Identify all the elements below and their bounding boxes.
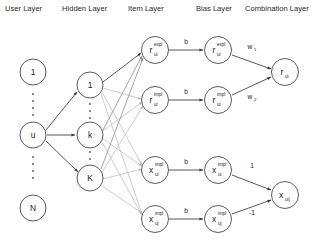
item-layer-nodes: r ui expl r ui impl x ui impl x uj impl <box>142 37 169 233</box>
node-combination-rui-circle[interactable] <box>272 59 299 86</box>
node-item-r-expl-sup: expl <box>154 42 162 47</box>
node-bias-r-impl-circle[interactable] <box>205 87 232 114</box>
node-hidden-1[interactable]: 1 <box>77 72 103 98</box>
node-bias-x-ui[interactable]: x ui impl <box>205 157 232 184</box>
node-user-u-label: u <box>31 130 36 140</box>
edge-bias3-to-xuij <box>232 175 271 190</box>
edge-hk-to-item3 <box>103 139 142 166</box>
edge-hK-to-item3 <box>103 169 142 179</box>
node-combination-xuij[interactable]: x uij <box>272 182 299 209</box>
header-hidden-layer: Hidden Layer <box>62 4 108 13</box>
node-bias-x-uj-sub: uj <box>218 221 222 226</box>
edge-hK-to-item4 <box>102 186 142 213</box>
edges-bias-to-combination: w 1 w 2 1 -1 <box>232 43 271 216</box>
edge-label-w1-sub: 1 <box>254 47 257 52</box>
node-bias-x-ui-circle[interactable] <box>205 157 232 184</box>
edge-label-w1: w 1 <box>247 43 257 52</box>
node-bias-r-expl-label: r <box>213 45 216 55</box>
header-user-layer: User Layer <box>5 4 43 13</box>
node-bias-r-expl-sup: expl <box>217 42 225 47</box>
node-item-r-expl-label: r <box>150 45 153 55</box>
node-hidden-1-label: 1 <box>88 80 93 90</box>
edge-u-to-hK <box>46 141 78 172</box>
node-hidden-kcap[interactable]: K <box>77 165 103 191</box>
node-user-1-label: 1 <box>31 67 36 77</box>
bias-layer-nodes: r ui expl r ui impl x ui impl x uj impl <box>205 37 232 233</box>
node-item-x-ui-circle[interactable] <box>142 157 169 184</box>
node-item-r-impl-label: r <box>150 95 153 105</box>
edge-label-w2-text: w <box>247 93 253 100</box>
edge-hk-to-item4 <box>102 142 142 215</box>
edge-label-minus-one: -1 <box>249 209 255 216</box>
edge-label-w2: w 2 <box>247 93 257 102</box>
edge-u-to-h1 <box>46 92 77 130</box>
edge-label-w1-text: w <box>247 43 253 50</box>
node-item-r-expl-circle[interactable] <box>142 37 169 64</box>
node-item-x-ui-sub: ui <box>155 172 159 177</box>
node-bias-r-impl-sup: impl <box>217 92 225 97</box>
node-user-1[interactable]: 1 <box>20 59 46 85</box>
node-combination-rui-sub: ui <box>285 74 289 79</box>
node-combination-xuij-circle[interactable] <box>272 182 299 209</box>
edge-h1-to-item3 <box>102 92 142 165</box>
node-item-r-impl[interactable]: r ui impl <box>142 87 169 114</box>
hidden-layer-nodes: 1 k K <box>77 72 103 191</box>
node-item-x-uj-sup: impl <box>155 211 163 216</box>
node-combination-xuij-sub: uij <box>285 197 290 202</box>
node-user-n-label: N <box>30 203 36 213</box>
edge-label-one: 1 <box>250 162 254 169</box>
node-bias-r-expl-sub: ui <box>217 52 221 57</box>
combination-layer-nodes: r ui x uij <box>272 59 299 209</box>
edges-item-to-bias: b b b b <box>169 38 203 219</box>
node-item-r-expl-sub: ui <box>154 52 158 57</box>
edge-label-b-3: b <box>184 158 188 165</box>
node-hidden-kcap-label: K <box>87 173 93 183</box>
edge-label-w2-sub: 2 <box>254 97 257 102</box>
ellipsis-user-lower <box>32 156 34 179</box>
node-bias-x-ui-sup: impl <box>218 162 226 167</box>
node-bias-r-impl-sub: ui <box>217 102 221 107</box>
node-hidden-k[interactable]: k <box>77 122 103 148</box>
user-layer-nodes: 1 u N <box>20 59 46 221</box>
node-item-r-impl-sub: ui <box>154 102 158 107</box>
node-item-x-uj-sub: uj <box>155 221 159 226</box>
edges-hidden-to-item <box>101 53 143 215</box>
node-item-r-impl-sup: impl <box>154 92 162 97</box>
node-user-u[interactable]: u <box>20 122 46 148</box>
edges-user-to-hidden <box>46 92 78 172</box>
node-bias-r-impl[interactable]: r ui impl <box>205 87 232 114</box>
node-item-r-expl[interactable]: r ui expl <box>142 37 169 64</box>
node-bias-r-expl-circle[interactable] <box>205 37 232 64</box>
node-item-x-ui[interactable]: x ui impl <box>142 157 169 184</box>
node-bias-r-impl-label: r <box>213 95 216 105</box>
layer-headers: User Layer Hidden Layer Item Layer Bias … <box>5 4 309 13</box>
header-combination-layer: Combination Layer <box>245 4 309 13</box>
ellipsis-hidden-lower <box>89 151 91 160</box>
ellipsis-hidden-upper <box>89 103 91 119</box>
node-bias-x-ui-sub: ui <box>218 172 222 177</box>
network-diagram: User Layer Hidden Layer Item Layer Bias … <box>0 0 323 250</box>
node-bias-r-expl[interactable]: r ui expl <box>205 37 232 64</box>
edge-bias1-to-rui <box>232 55 271 69</box>
node-item-x-uj-circle[interactable] <box>142 206 169 233</box>
edge-label-b-1: b <box>184 38 188 45</box>
node-item-x-uj[interactable]: x uj impl <box>142 206 169 233</box>
header-item-layer: Item Layer <box>128 4 164 13</box>
node-bias-x-uj-sup: impl <box>218 211 226 216</box>
header-bias-layer: Bias Layer <box>196 4 232 13</box>
node-bias-x-uj[interactable]: x uj impl <box>205 206 232 233</box>
ellipsis-user-upper <box>32 93 34 116</box>
edge-label-b-2: b <box>184 88 188 95</box>
node-bias-x-uj-circle[interactable] <box>205 206 232 233</box>
node-combination-rui-label: r <box>281 67 284 77</box>
node-item-x-ui-sup: impl <box>155 162 163 167</box>
edge-label-b-4: b <box>184 207 188 214</box>
diagram-canvas: User Layer Hidden Layer Item Layer Bias … <box>0 0 323 250</box>
node-user-n[interactable]: N <box>20 195 46 221</box>
node-item-r-impl-circle[interactable] <box>142 87 169 114</box>
node-combination-rui[interactable]: r ui <box>272 59 299 86</box>
